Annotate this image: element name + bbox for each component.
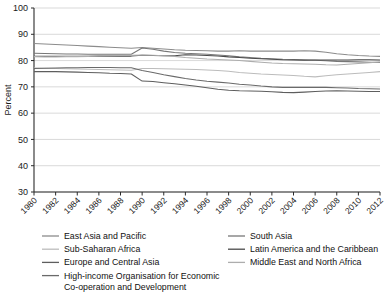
legend-label-europe-and-central-asia: Europe and Central Asia (64, 257, 159, 267)
x-tick-label: 2006 (300, 195, 321, 216)
y-tick-label: 30 (18, 187, 28, 197)
y-axis-title: Percent (3, 84, 13, 116)
x-tick-label: 1996 (191, 195, 212, 216)
y-tick-label: 40 (18, 161, 28, 171)
y-axis-tick-labels: 30405060708090100 (13, 3, 28, 197)
y-tick-label: 70 (18, 82, 28, 92)
legend-label-east-asia-and-pacific: East Asia and Pacific (64, 231, 147, 241)
x-tick-label: 1988 (105, 195, 126, 216)
x-tick-label: 2010 (343, 195, 364, 216)
legend-label-high-income-organisation-for-economic-co: High-income Organisation for Economic (64, 271, 220, 281)
chart-legend: East Asia and PacificSub-Saharan AfricaE… (42, 231, 378, 292)
x-tick-label: 1990 (127, 195, 148, 216)
legend-label-sub-saharan-africa: Sub-Saharan Africa (64, 244, 140, 254)
y-tick-label: 80 (18, 56, 28, 66)
series-lines (34, 43, 380, 92)
series-line-4 (34, 72, 380, 93)
chart-figure: 30405060708090100 1980198219841986198819… (0, 0, 386, 302)
x-tick-label: 1992 (148, 195, 169, 216)
x-tick-label: 2012 (364, 195, 385, 216)
x-tick-label: 2008 (321, 195, 342, 216)
x-tick-label: 2000 (235, 195, 256, 216)
x-tick-label: 1984 (62, 195, 83, 216)
y-tick-label: 100 (13, 3, 28, 13)
y-tick-label: 60 (18, 108, 28, 118)
series-line-6 (34, 67, 380, 89)
x-tick-label: 2004 (278, 195, 299, 216)
legend-label-latin-america-and-the-caribbean: Latin America and the Caribbean (250, 244, 378, 254)
y-tick-label: 50 (18, 135, 28, 145)
gridlines (34, 8, 380, 192)
legend-label-high-income-oecd-line2: Co-operation and Development (64, 282, 187, 292)
x-tick-label: 1994 (170, 195, 191, 216)
x-tick-label: 1982 (40, 195, 61, 216)
legend-label-south-asia: South Asia (250, 231, 292, 241)
x-tick-label: 2002 (256, 195, 277, 216)
x-tick-label: 1980 (18, 195, 39, 216)
y-tick-label: 90 (18, 29, 28, 39)
x-tick-label: 1986 (83, 195, 104, 216)
x-tick-label: 1998 (213, 195, 234, 216)
line-chart: 30405060708090100 1980198219841986198819… (0, 0, 386, 302)
legend-label-middle-east-and-north-africa: Middle East and North Africa (250, 257, 362, 267)
x-axis-tick-labels: 1980198219841986198819901992199419961998… (18, 195, 385, 216)
